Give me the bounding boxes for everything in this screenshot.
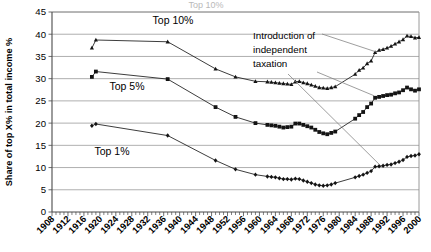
data-point-marker — [321, 131, 325, 135]
data-point-marker — [397, 91, 401, 95]
data-point-marker — [389, 93, 393, 97]
data-point-marker — [214, 105, 218, 109]
callout-line-2: independent — [253, 44, 307, 55]
data-point-marker — [301, 123, 305, 127]
data-point-marker — [94, 70, 98, 74]
callout-line-3: taxation — [253, 58, 287, 69]
y-tick-label: 30 — [35, 73, 46, 84]
data-point-marker — [353, 117, 357, 121]
data-point-marker — [385, 93, 389, 97]
data-point-marker — [166, 77, 170, 81]
data-point-marker — [377, 95, 381, 99]
data-point-marker — [393, 91, 397, 95]
data-point-marker — [293, 122, 297, 126]
callout-line-1: Introduction of — [253, 30, 315, 41]
data-point-marker — [254, 121, 258, 125]
chart-canvas: Top 10% Share of top X% in total income … — [0, 0, 431, 252]
data-point-marker — [277, 125, 281, 129]
series-label-top1: Top 1% — [94, 145, 129, 157]
data-point-marker — [90, 75, 94, 79]
data-point-marker — [234, 115, 238, 119]
data-point-marker — [305, 124, 309, 128]
data-point-marker — [297, 122, 301, 126]
data-point-marker — [361, 110, 365, 114]
y-axis-title: Share of top X% in total income % — [4, 38, 14, 187]
data-point-marker — [270, 123, 274, 127]
data-point-marker — [317, 130, 321, 134]
y-axis-title-text: Share of top X% in total income % — [4, 38, 14, 187]
data-point-marker — [417, 87, 421, 91]
income-share-chart: Top 10% Share of top X% in total income … — [0, 0, 431, 252]
y-tick-label: 15 — [35, 140, 46, 151]
data-point-marker — [365, 105, 369, 109]
y-tick-label: 40 — [35, 29, 46, 40]
data-point-marker — [313, 128, 317, 132]
y-tick-label: 35 — [35, 51, 46, 62]
data-point-marker — [369, 102, 373, 106]
data-point-marker — [409, 87, 413, 91]
y-tick-label: 25 — [35, 95, 46, 106]
data-point-marker — [289, 125, 293, 129]
data-point-marker — [413, 89, 417, 93]
y-tick-label: 45 — [35, 6, 46, 17]
data-point-marker — [309, 126, 313, 130]
data-point-marker — [325, 132, 329, 136]
y-tick-label: 5 — [41, 184, 46, 195]
data-point-marker — [357, 113, 361, 117]
data-point-marker — [401, 88, 405, 92]
data-point-marker — [405, 86, 409, 90]
data-point-marker — [329, 131, 333, 135]
data-point-marker — [285, 125, 289, 129]
series-label-top5: Top 5% — [109, 80, 144, 92]
y-tick-label: 10 — [35, 162, 46, 173]
data-point-marker — [273, 124, 277, 128]
data-point-marker — [381, 94, 385, 98]
data-point-marker — [266, 123, 270, 127]
series-label-top10: Top 10% — [153, 14, 194, 26]
data-point-marker — [281, 126, 285, 130]
data-point-marker — [333, 130, 337, 134]
y-tick-label: 0 — [41, 206, 46, 217]
clipped-title: Top 10% — [188, 0, 223, 10]
y-tick-label: 20 — [35, 118, 46, 129]
data-point-marker — [373, 96, 377, 100]
